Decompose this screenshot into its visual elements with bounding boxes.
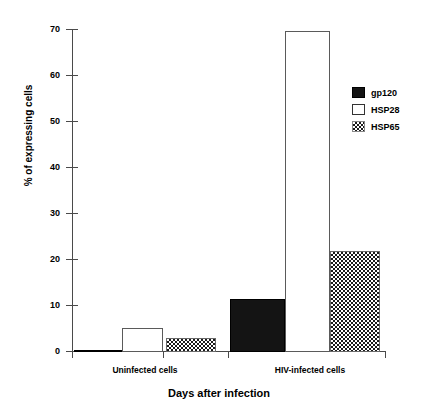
bar-hsp65-hiv-infected (330, 251, 380, 352)
y-axis-tick (66, 305, 78, 306)
x-axis-title: Days after infection (0, 387, 438, 399)
bar-hsp65-uninfected (166, 338, 216, 352)
y-axis-tick-label: 30 (32, 209, 60, 218)
legend-swatch-solid-black-icon (352, 87, 365, 98)
y-axis-tick-label: 40 (32, 163, 60, 172)
y-axis-tick-label: 70 (32, 25, 60, 34)
x-axis-tick (385, 351, 386, 358)
bar-hsp28-hiv-infected (285, 31, 330, 352)
bar-gp120-uninfected (74, 350, 122, 352)
chart-legend: gp120 HSP28 HSP65 (352, 84, 436, 135)
x-axis-tick (72, 351, 73, 358)
bar-gp120-hiv-infected (230, 299, 285, 352)
y-axis-tick (66, 121, 78, 122)
y-axis-tick-label: 10 (32, 301, 60, 310)
y-axis-tick (66, 259, 78, 260)
x-axis-group-label-uninfected: Uninfected cells (85, 365, 205, 375)
x-axis-group-label-hiv-infected: HIV-infected cells (245, 365, 375, 375)
legend-label: HSP65 (371, 122, 400, 132)
legend-item-hsp28: HSP28 (352, 101, 436, 118)
legend-item-gp120: gp120 (352, 84, 436, 101)
legend-swatch-checkerboard-icon (352, 121, 365, 132)
bar-chart-figure: % of expressing cells 70 60 50 40 30 20 … (0, 0, 438, 411)
legend-item-hsp65: HSP65 (352, 118, 436, 135)
x-axis-tick (228, 351, 229, 358)
y-axis-tick (66, 167, 78, 168)
y-axis-tick-label: 50 (32, 117, 60, 126)
y-axis-tick-label: 0 (32, 347, 60, 356)
x-axis-tick (163, 351, 164, 358)
y-axis-tick-label: 20 (32, 255, 60, 264)
y-axis-tick (66, 29, 78, 30)
legend-swatch-empty-white-icon (352, 104, 365, 115)
y-axis-tick-label: 60 (32, 71, 60, 80)
legend-label: HSP28 (371, 105, 400, 115)
y-axis-tick (66, 75, 78, 76)
bar-hsp28-uninfected (122, 328, 163, 353)
y-axis-line (72, 29, 73, 352)
y-axis-tick (66, 213, 78, 214)
legend-label: gp120 (371, 88, 397, 98)
